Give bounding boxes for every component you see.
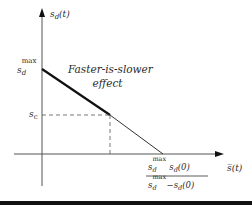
smax-sup: max [22,58,37,65]
y-axis-label: sd(t) [50,10,70,21]
curve-thin-segment [110,115,163,154]
x-axis-label: s̅(t) [227,164,242,173]
bottom-rule [0,201,252,205]
num-s2: s [167,162,174,172]
annotation-line1: Faster-is-slower [68,62,145,76]
den-sub: d [152,184,156,192]
den-sup: max [152,174,166,181]
x-intercept-denominator: smaxd−sd(0) [148,181,194,192]
sc-sub: c [34,113,38,121]
diagram-canvas [0,0,252,209]
num-rest: (0) [178,162,190,172]
annotation-line2: effect [70,76,145,90]
sc-label: sc [29,110,38,121]
den-rest: (0) [182,180,194,190]
den-s2: −s [167,180,178,190]
x-axis-arrow-icon [215,151,224,157]
y-intercept-label: smaxd [17,66,26,77]
y-label-rest: (t) [59,9,70,19]
smax-sub: d [22,69,26,77]
y-axis-arrow-icon [39,8,45,17]
x-intercept-numerator: smaxd sd(0) [148,163,190,174]
faster-is-slower-annotation: Faster-is-slower effect [70,62,145,90]
x-label-rest: (t) [232,163,243,173]
num-sup: max [152,156,166,163]
